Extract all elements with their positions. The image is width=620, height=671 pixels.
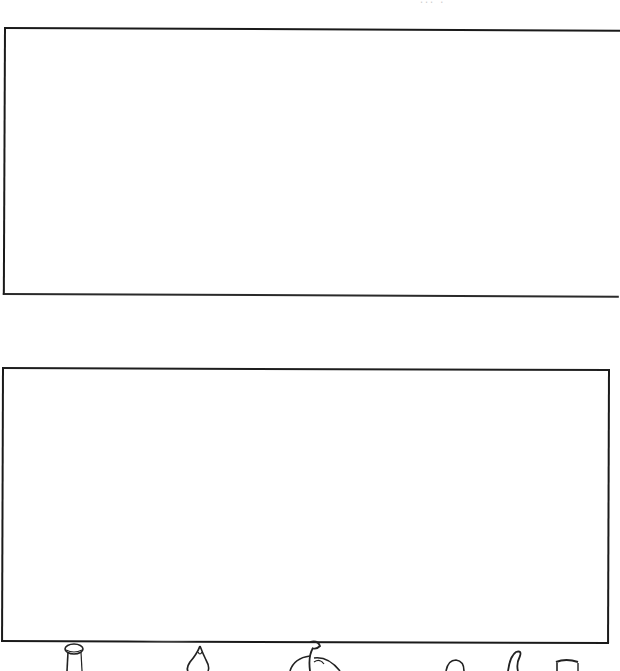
leaf-doodle-icon [500,640,530,671]
jar-doodle-icon [60,640,90,671]
footer-doodles [0,640,614,671]
cropped-header-text: ∙∙∙ ∙ [420,0,445,7]
apple-doodle-icon [280,640,350,671]
round-doodle-icon [440,640,470,671]
cup-doodle-icon [548,640,588,671]
answer-box-top [3,27,620,298]
drop-doodle-icon [180,640,220,671]
answer-box-bottom [1,367,610,644]
